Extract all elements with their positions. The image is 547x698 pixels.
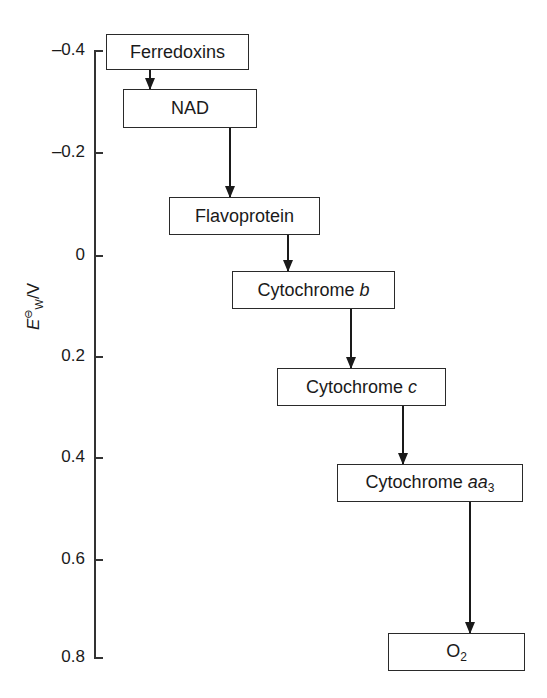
y-tick-label: 0 xyxy=(76,245,85,265)
node-label: Ferredoxins xyxy=(130,42,225,63)
y-tick-label: –0.4 xyxy=(52,40,85,60)
node-cytochrome-b: Cytochrome b xyxy=(232,271,395,309)
node-label: O2 xyxy=(446,641,467,664)
y-tick-label: 0.8 xyxy=(61,647,85,667)
node-label: Flavoprotein xyxy=(195,206,294,227)
y-tick xyxy=(94,50,103,52)
node-label-subscript: 3 xyxy=(488,481,495,495)
node-flavoprotein: Flavoprotein xyxy=(169,197,320,235)
node-label-subscript: 2 xyxy=(460,650,467,664)
node-label-italic: aa xyxy=(468,472,488,492)
y-axis-line xyxy=(94,50,96,658)
node-nad: NAD xyxy=(123,89,257,128)
node-label-main: Cytochrome xyxy=(306,377,408,397)
node-label-main: Cytochrome xyxy=(366,472,468,492)
y-tick xyxy=(94,152,103,154)
y-tick xyxy=(94,457,103,459)
y-tick-label: 0.6 xyxy=(61,549,85,569)
y-tick xyxy=(94,559,103,561)
node-label: Cytochrome aa3 xyxy=(366,472,495,495)
node-label: Cytochrome c xyxy=(306,377,417,398)
node-o2: O2 xyxy=(388,633,525,671)
arrow-cytochrome-aa3-to-o2 xyxy=(469,501,471,633)
node-label-italic: b xyxy=(360,280,370,300)
y-tick xyxy=(94,657,103,659)
y-axis-label-superscript: ⊖ xyxy=(22,309,34,318)
y-axis-label-unit: /V xyxy=(24,283,43,299)
node-label-main: Cytochrome xyxy=(257,280,359,300)
arrow-ferredoxins-to-nad xyxy=(149,69,151,89)
arrow-nad-to-flavoprotein xyxy=(229,127,231,197)
y-axis-label-symbol: E xyxy=(24,319,43,330)
arrow-flavoprotein-to-cytochrome-b xyxy=(287,234,289,271)
node-label: Cytochrome b xyxy=(257,280,369,301)
node-label-main: O xyxy=(446,641,460,661)
node-cytochrome-aa3: Cytochrome aa3 xyxy=(337,464,523,502)
y-tick xyxy=(94,255,103,257)
arrow-cytochrome-c-to-cytochrome-aa3 xyxy=(402,405,404,464)
y-axis-label: E⊖W/V xyxy=(22,283,45,330)
node-label-italic: c xyxy=(408,377,417,397)
y-tick-label: 0.2 xyxy=(61,346,85,366)
y-tick-label: –0.2 xyxy=(52,142,85,162)
node-cytochrome-c: Cytochrome c xyxy=(277,368,446,406)
y-tick xyxy=(94,356,103,358)
y-tick-label: 0.4 xyxy=(61,447,85,467)
node-label: NAD xyxy=(171,98,209,119)
node-ferredoxins: Ferredoxins xyxy=(106,34,249,70)
arrow-cytochrome-b-to-cytochrome-c xyxy=(350,308,352,368)
y-axis-label-subscript: W xyxy=(33,299,45,309)
